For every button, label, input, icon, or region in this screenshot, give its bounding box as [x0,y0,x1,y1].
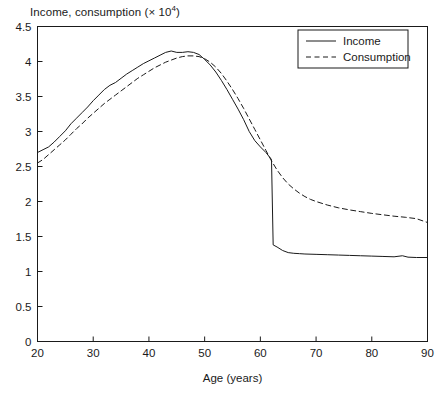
y-tick-label: 1.5 [16,231,32,243]
x-axis-title-text: Age (years) [203,372,263,384]
y-tick-label: 4 [25,56,32,68]
y-tick-label: 0.5 [16,301,32,313]
legend-label-consumption: Consumption [343,51,411,63]
x-tick-label: 30 [87,347,100,359]
y-tick-label: 3.5 [16,91,32,103]
x-tick-label: 40 [143,347,156,359]
x-axis-title: Age (years) [203,372,263,384]
y-tick-label: 2 [25,196,31,208]
tick-labels-group: 00.511.522.533.544.52030405060708090 [16,21,434,359]
series-group [38,51,428,258]
y-tick-label: 1 [25,266,31,278]
series-line-consumption [38,56,428,223]
chart-legend: IncomeConsumption [298,30,411,68]
axes-group [38,27,428,342]
y-tick-label: 3 [25,126,31,138]
x-tick-label: 90 [421,347,434,359]
y-tick-label: 2.5 [16,161,32,173]
series-line-income [38,51,428,258]
chart-plot: 00.511.522.533.544.52030405060708090 Inc… [0,0,443,394]
y-tick-label: 4.5 [16,21,32,33]
legend-label-income: Income [343,35,381,47]
x-tick-label: 20 [31,347,44,359]
chart-page: Income, consumption (× 104) 00.511.522.5… [0,0,443,394]
x-tick-label: 60 [254,347,267,359]
x-tick-label: 80 [365,347,378,359]
x-tick-label: 50 [198,347,211,359]
x-tick-label: 70 [310,347,323,359]
ticks-group [38,27,428,342]
plot-frame [38,27,428,342]
